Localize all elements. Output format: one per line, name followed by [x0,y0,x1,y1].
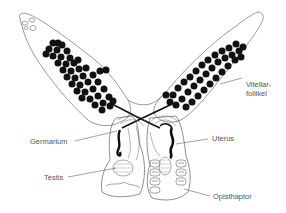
label-uterus: Uterus [212,134,234,143]
uterus-shape [170,128,173,158]
opisthaptor-clamps [150,160,186,193]
right-hindbody-outline [147,116,190,200]
label-testis: Testis [44,173,63,182]
diplozoon-diagram: Vitellar- follikel Germarium Uterus Test… [0,0,286,213]
label-vitellarfollikel-line2: follikel [246,89,267,98]
label-vitellarfollikel-line1: Vitellar- [246,80,271,89]
testis-shape [113,157,171,176]
left-vitellar-follicles [43,40,117,114]
anterior-suckers-icon [22,18,36,31]
diagram-drawing [0,0,286,213]
left-opisthaptor-base [106,182,140,188]
left-body-outline [19,13,130,125]
right-body-outline [154,12,263,122]
label-germarium: Germarium [30,137,68,146]
germarium-shape [118,130,121,156]
label-opisthaptor: Opisthaptor [213,192,252,201]
